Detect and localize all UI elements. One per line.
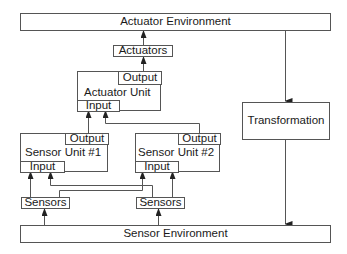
sensor-unit-1-output-label: Output [70, 133, 105, 145]
actuator-unit-label: Actuator Unit [84, 87, 150, 99]
sensor-unit-2-input-port: Input [135, 161, 179, 173]
actuator-unit-input-label: Input [86, 100, 112, 112]
actuators-box: Actuators [113, 45, 173, 57]
actuator-unit-box: Output Actuator Unit Input [77, 71, 161, 111]
sensor-unit-2-label: Sensor Unit #2 [138, 147, 214, 159]
sensor-unit-1-output-port: Output [65, 133, 109, 145]
arrow-sensors2-to-su1 [51, 172, 153, 197]
sensor-unit-2-output-port: Output [178, 133, 221, 145]
transformation-box: Transformation [242, 102, 330, 140]
sensor-unit-2-output-label: Output [182, 133, 217, 145]
actuator-unit-output-label: Output [123, 72, 158, 84]
actuator-unit-output-port: Output [118, 71, 162, 85]
sensor-unit-1-box: Output Sensor Unit #1 Input [20, 133, 108, 172]
sensors-1-label: Sensors [24, 197, 66, 209]
arrow-sensors1-to-su2 [60, 172, 143, 197]
sensor-unit-1-label: Sensor Unit #1 [25, 147, 101, 159]
sensor-environment-label: Sensor Environment [123, 228, 227, 240]
sensor-unit-1-input-label: Input [30, 161, 56, 173]
actuator-environment-box: Actuator Environment [20, 13, 331, 31]
sensor-unit-1-input-port: Input [20, 161, 65, 173]
sensors-2-box: Sensors [136, 197, 185, 209]
actuators-label: Actuators [119, 45, 168, 57]
sensors-2-label: Sensors [139, 197, 181, 209]
sensor-environment-box: Sensor Environment [20, 225, 331, 243]
arrow-su2-to-actuator-input [106, 111, 200, 133]
sensors-1-box: Sensors [21, 197, 70, 209]
sensor-unit-2-box: Output Sensor Unit #2 Input [135, 133, 220, 172]
sensor-unit-2-input-label: Input [144, 161, 170, 173]
actuator-environment-label: Actuator Environment [120, 16, 231, 28]
transformation-label: Transformation [248, 115, 325, 127]
actuator-unit-input-port: Input [77, 100, 120, 112]
